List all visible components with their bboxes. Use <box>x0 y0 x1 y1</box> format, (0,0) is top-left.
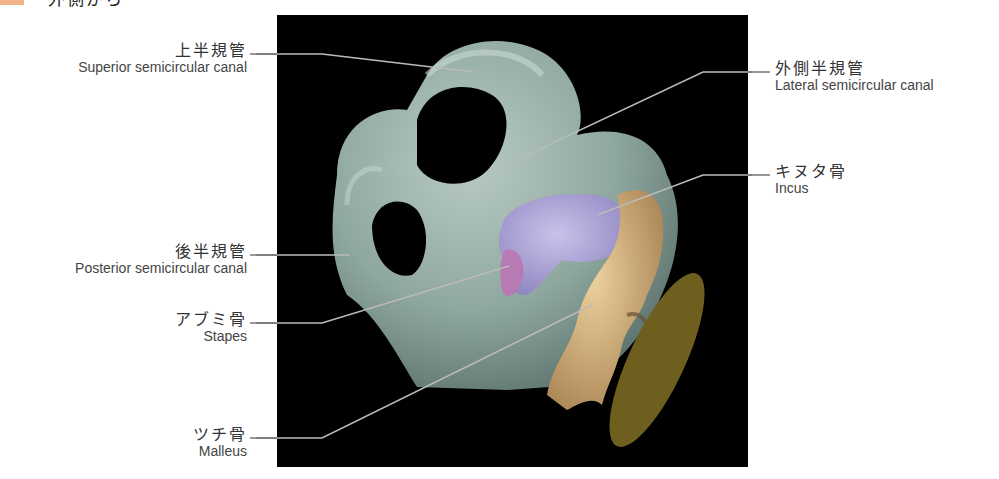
label-lateral-semicircular-canal: 外側半規管 Lateral semicircular canal <box>775 60 934 93</box>
inner-ear-illustration <box>277 15 748 467</box>
inner-ear-3d-render <box>277 15 748 467</box>
label-superior-semicircular-canal: 上半規管 Superior semicircular canal <box>78 42 247 75</box>
label-incus: キヌタ骨 Incus <box>775 163 847 196</box>
label-posterior-semicircular-canal: 後半規管 Posterior semicircular canal <box>75 243 247 276</box>
label-malleus: ツチ骨 Malleus <box>193 426 247 459</box>
heading-badge <box>0 0 24 5</box>
heading-title: 外側から <box>48 0 124 10</box>
section-heading: 外側から <box>0 0 124 6</box>
label-stapes: アブミ骨 Stapes <box>175 311 247 344</box>
